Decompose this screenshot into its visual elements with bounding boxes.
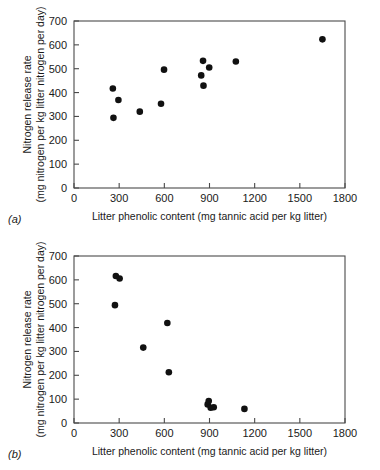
x-tick-label: 1800 xyxy=(333,427,357,439)
x-tick-label: 300 xyxy=(110,427,128,439)
y-axis-title-line1: Nitrogen release rate xyxy=(21,55,33,153)
data-point xyxy=(116,275,123,282)
data-point xyxy=(241,406,248,413)
y-tick-label: 500 xyxy=(49,298,67,310)
y-axis-title-line2: (mg nitrogen per kg litter nitrogen per … xyxy=(34,241,46,437)
data-point xyxy=(110,115,117,122)
scatter-plot-a: 0100200300400500600700030060090012001500… xyxy=(0,0,380,235)
y-tick-label: 400 xyxy=(49,87,67,99)
data-point xyxy=(198,72,205,79)
y-tick-label: 0 xyxy=(61,182,67,194)
x-tick-label: 1200 xyxy=(242,427,266,439)
y-tick-label: 500 xyxy=(49,63,67,75)
data-point xyxy=(161,66,168,73)
data-point xyxy=(136,108,143,115)
y-axis-title-line2: (mg nitrogen per kg litter nitrogen per … xyxy=(34,6,46,202)
y-tick-label: 0 xyxy=(61,417,67,429)
x-tick-label: 900 xyxy=(200,427,218,439)
y-tick-label: 200 xyxy=(49,134,67,146)
data-point xyxy=(140,344,147,351)
y-tick-label: 600 xyxy=(49,39,67,51)
x-tick-label: 1200 xyxy=(242,192,266,204)
data-point xyxy=(115,97,122,104)
x-tick-label: 600 xyxy=(155,192,173,204)
panel-label-a: (a) xyxy=(8,213,21,225)
y-tick-label: 200 xyxy=(49,369,67,381)
data-point xyxy=(166,369,173,376)
scatter-plot-b: 0100200300400500600700030060090012001500… xyxy=(0,235,380,470)
x-tick-label: 1800 xyxy=(333,192,357,204)
y-tick-label: 100 xyxy=(49,158,67,170)
scatter-panel-a: 0100200300400500600700030060090012001500… xyxy=(0,0,380,235)
data-point xyxy=(206,64,213,71)
y-tick-label: 300 xyxy=(49,110,67,122)
x-tick-label: 600 xyxy=(155,427,173,439)
data-point xyxy=(319,36,326,43)
data-point xyxy=(164,320,171,327)
data-point xyxy=(110,85,117,92)
x-tick-label: 0 xyxy=(71,192,77,204)
y-tick-label: 300 xyxy=(49,345,67,357)
plot-frame xyxy=(74,21,345,188)
x-tick-label: 1500 xyxy=(288,427,312,439)
y-tick-label: 700 xyxy=(49,15,67,27)
x-tick-label: 900 xyxy=(200,192,218,204)
data-point xyxy=(112,302,119,309)
y-tick-label: 100 xyxy=(49,393,67,405)
y-tick-label: 400 xyxy=(49,322,67,334)
x-axis-title: Litter phenolic content (mg tannic acid … xyxy=(92,210,327,222)
x-tick-label: 1500 xyxy=(288,192,312,204)
x-axis-title: Litter phenolic content (mg tannic acid … xyxy=(92,445,327,457)
data-point xyxy=(233,58,240,65)
data-point xyxy=(200,58,207,65)
data-point xyxy=(158,100,165,107)
y-axis-title-line1: Nitrogen release rate xyxy=(21,290,33,388)
y-tick-label: 600 xyxy=(49,274,67,286)
x-tick-label: 300 xyxy=(110,192,128,204)
y-tick-label: 700 xyxy=(49,250,67,262)
data-point xyxy=(205,398,212,405)
data-point xyxy=(210,404,217,411)
scatter-panel-b: 0100200300400500600700030060090012001500… xyxy=(0,235,380,470)
data-point xyxy=(200,82,207,89)
x-tick-label: 0 xyxy=(71,427,77,439)
panel-label-b: (b) xyxy=(8,448,21,460)
